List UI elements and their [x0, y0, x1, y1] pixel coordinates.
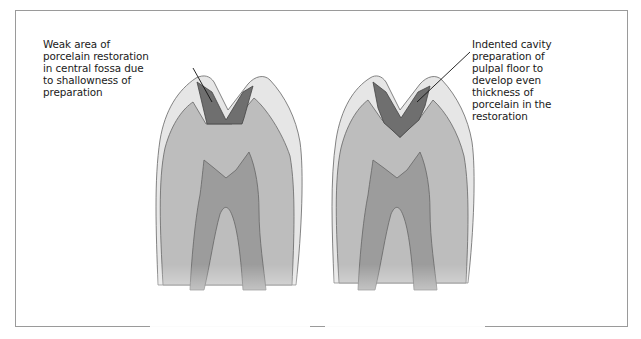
right-tooth — [325, 0, 485, 339]
right-annotation-label: Indented cavity preparation of pulpal fl… — [472, 38, 612, 122]
left-annotation-label: Weak area of porcelain restoration in ce… — [43, 38, 193, 98]
